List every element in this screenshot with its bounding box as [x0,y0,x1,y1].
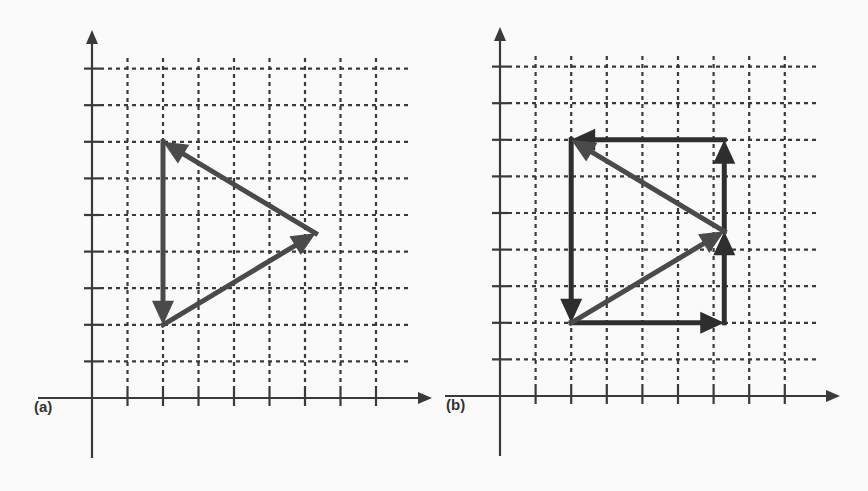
x-axis-arrow-icon [418,392,432,404]
vector-left-down [560,140,582,323]
vector-diagonal-up-right [163,233,316,324]
grid-lines [508,54,819,388]
vector-diagram [0,0,868,491]
x-axis-arrow-icon [826,390,840,402]
y-axis-arrow-icon [494,27,506,41]
vector-bottom-right [571,312,724,334]
vector-shaft [582,146,725,231]
vector-diagonal-up-left [163,142,316,234]
axes [38,40,422,458]
arrowhead-icon [700,312,724,334]
axes [445,37,830,456]
vector-shaft [173,148,315,233]
vector-diagonal-up-left [571,140,724,232]
panel-label-a: (a) [34,398,52,415]
panel-a [38,30,432,458]
vector-right-up-lower [713,231,735,322]
vector-vertical-down [152,142,174,325]
y-axis-arrow-icon [86,30,98,44]
panel-label-b: (b) [446,396,465,413]
vector-right-up-upper [713,140,735,232]
grid-lines [100,56,410,390]
arrowhead-icon [713,140,735,164]
panel-b [445,27,840,456]
vector-diagonal-up-right [571,231,724,322]
